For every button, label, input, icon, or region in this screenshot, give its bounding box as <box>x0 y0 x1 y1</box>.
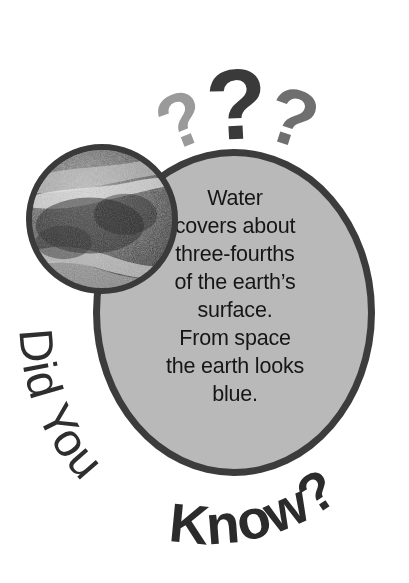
earth-photo <box>26 144 178 294</box>
question-mark-right-icon: ? <box>257 72 328 163</box>
did-you-know-poster: ? ? ? Water covers about three-fourths o… <box>0 0 409 583</box>
earth-photo-image <box>32 150 172 288</box>
